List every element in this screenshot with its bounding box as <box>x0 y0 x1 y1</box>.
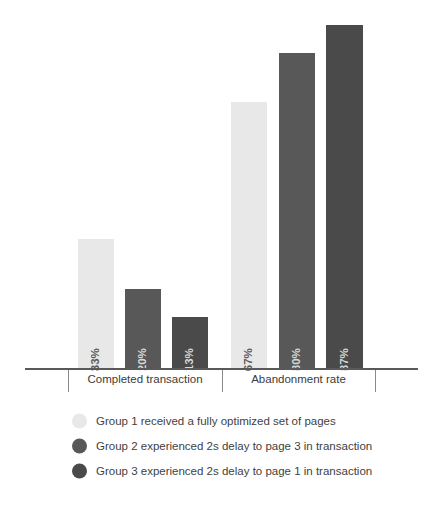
bar-abandonment-group1: 67% <box>231 102 267 370</box>
bar-completed-group1: 33% <box>78 239 114 370</box>
legend-swatch-circle-icon <box>72 413 87 428</box>
legend-item-group2: Group 2 experienced 2s delay to page 3 i… <box>0 433 439 458</box>
chart-legend: Group 1 received a fully optimized set o… <box>0 408 439 483</box>
legend-item-group1: Group 1 received a fully optimized set o… <box>0 408 439 433</box>
x-axis-tick <box>375 370 376 392</box>
bar-abandonment-group3: 87% <box>326 25 363 370</box>
bar-completed-group2: 20% <box>125 289 161 370</box>
plot-area: 33% 20% 13% 67% 80% 87% <box>0 0 439 370</box>
legend-swatch-circle-icon <box>72 463 87 478</box>
legend-swatch-circle-icon <box>72 438 87 453</box>
bar-completed-group3: 13% <box>172 317 208 370</box>
category-label-completed-transaction: Completed transaction <box>68 373 222 385</box>
legend-item-label: Group 2 experienced 2s delay to page 3 i… <box>96 440 372 452</box>
bar-abandonment-group2: 80% <box>279 53 315 370</box>
legend-item-label: Group 1 received a fully optimized set o… <box>96 415 336 427</box>
legend-item-label: Group 3 experienced 2s delay to page 1 i… <box>96 465 372 477</box>
category-label-abandonment-rate: Abandonment rate <box>222 373 375 385</box>
grouped-bar-chart: 33% 20% 13% 67% 80% 87% Completed transa… <box>0 0 439 506</box>
legend-item-group3: Group 3 experienced 2s delay to page 1 i… <box>0 458 439 483</box>
